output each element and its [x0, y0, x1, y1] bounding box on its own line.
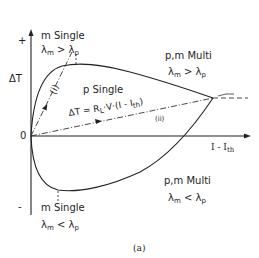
cond-rhs-sub: p — [74, 224, 78, 232]
cond-lhs-sub: m — [174, 71, 181, 79]
region-bottom-right-condition: λm < λp — [168, 192, 206, 207]
cond-op: < — [184, 192, 192, 203]
path-ii-label: (ii) — [155, 114, 164, 125]
figure-caption: (a) — [133, 243, 145, 254]
multi-boundary-dashed-upper — [218, 94, 234, 96]
x-axis-label-main: I - I — [211, 142, 227, 152]
path-i-line — [31, 52, 72, 136]
cond-lhs-sub: m — [47, 224, 54, 232]
region-top-left-condition: λm > λp — [41, 44, 79, 59]
y-plus-label: + — [18, 35, 26, 46]
cond-op: > — [57, 44, 65, 55]
origin-label: 0 — [20, 130, 26, 141]
cond-op: < — [57, 219, 65, 230]
path-i-arrow-icon — [42, 103, 49, 111]
region-top-left-title: m Single — [41, 30, 85, 41]
cond-rhs-sub: p — [74, 49, 78, 57]
region-center-title: p Single — [83, 84, 123, 95]
y-minus-label: - — [18, 201, 22, 212]
region-top-right-title: p,m Multi — [165, 50, 212, 61]
cond-op: > — [184, 66, 192, 77]
cond-lhs-sub: m — [174, 197, 181, 205]
region-top-right-condition: λm > λp — [168, 66, 206, 81]
x-axis-arrow-icon — [244, 134, 251, 139]
cond-rhs-sub: p — [201, 71, 205, 79]
x-axis-label-sub: th — [227, 146, 234, 154]
y-axis-arrow-icon — [29, 29, 34, 36]
cond-rhs-sub: p — [201, 197, 205, 205]
path-ii-arrow-icon — [95, 119, 102, 124]
cond-lhs-sub: m — [47, 49, 54, 57]
region-bottom-left-title: m Single — [41, 202, 85, 213]
y-axis-label: ΔT — [9, 73, 22, 84]
x-axis-label: I - Ith — [211, 142, 234, 156]
region-bottom-right-title: p,m Multi — [164, 175, 211, 186]
region-bottom-left-condition: λm < λp — [41, 219, 79, 234]
diagram-canvas — [0, 0, 259, 258]
